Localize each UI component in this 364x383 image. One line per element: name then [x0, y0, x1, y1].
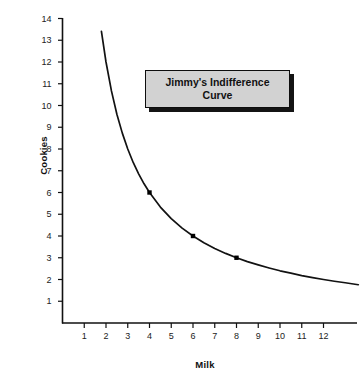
x-axis-tick-label: 7	[205, 331, 225, 341]
y-axis-tick-label: 1	[32, 296, 52, 306]
x-axis-tick-label: 2	[96, 331, 116, 341]
y-axis-tick-label: 14	[32, 14, 52, 24]
x-axis-tick-label: 1	[74, 331, 94, 341]
x-axis-tick-label: 11	[292, 331, 312, 341]
indifference-curve-chart: 1234567891011121314 123456789101112 Cook…	[0, 0, 364, 383]
x-axis-tick-label: 4	[140, 331, 160, 341]
chart-title-line-1: Jimmy's Indifference	[165, 76, 269, 88]
y-axis-tick-label: 12	[32, 57, 52, 67]
chart-title-text: Jimmy's Indifference Curve	[161, 76, 273, 102]
y-axis-tick-label: 10	[32, 101, 52, 111]
y-axis-tick-label: 13	[32, 35, 52, 45]
y-axis-tick-label: 4	[32, 231, 52, 241]
x-axis-tick-label: 12	[314, 331, 334, 341]
plot-area	[0, 0, 364, 383]
y-axis-title: Cookies	[38, 121, 49, 191]
x-axis-tick-label: 5	[161, 331, 181, 341]
data-point-marker	[191, 234, 195, 238]
x-axis-tick-label: 6	[183, 331, 203, 341]
x-axis-title: Milk	[155, 359, 255, 370]
y-axis-tick-label: 3	[32, 253, 52, 263]
y-axis-tick-label: 11	[32, 79, 52, 89]
x-axis-tick-label: 10	[270, 331, 290, 341]
x-axis-tick-label: 8	[227, 331, 247, 341]
chart-title-box: Jimmy's Indifference Curve	[145, 70, 290, 108]
x-axis-tick-label: 3	[118, 331, 138, 341]
y-axis-tick-label: 2	[32, 275, 52, 285]
x-axis-tick-label: 9	[248, 331, 268, 341]
data-point-marker	[234, 256, 238, 260]
data-point-marker	[147, 190, 151, 194]
y-axis-tick-label: 5	[32, 209, 52, 219]
data-point-markers	[147, 190, 238, 260]
chart-title-line-2: Curve	[203, 89, 233, 101]
